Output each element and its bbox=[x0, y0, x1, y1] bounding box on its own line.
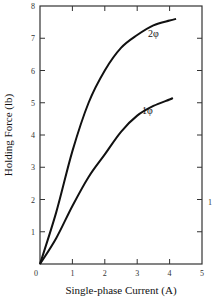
x-tick-label: 4 bbox=[168, 269, 172, 278]
y-tick-label: 8 bbox=[31, 2, 35, 11]
series-label-1phi: 1φ bbox=[142, 105, 153, 116]
x-axis-title: Single-phase Current (A) bbox=[65, 284, 177, 297]
y-tick-label: 4 bbox=[31, 131, 35, 140]
x-tick-label: 3 bbox=[135, 269, 139, 278]
y-tick-label: 3 bbox=[31, 163, 35, 172]
y-tick-label: 7 bbox=[31, 34, 35, 43]
y-tick-label: 1 bbox=[31, 228, 35, 237]
y-tick-label: 2 bbox=[31, 196, 35, 205]
series-label-2phi: 2φ bbox=[148, 28, 159, 39]
y-tick-label: 5 bbox=[31, 99, 35, 108]
right-margin-fragment: 1 bbox=[208, 198, 212, 207]
y-tick-label: 6 bbox=[31, 67, 35, 76]
x-tick-label: 0 bbox=[34, 269, 38, 278]
x-tick-label: 5 bbox=[200, 269, 204, 278]
plot-frame bbox=[40, 6, 202, 264]
curve-2phi bbox=[40, 19, 176, 264]
y-ticks: 12345678 bbox=[31, 2, 202, 237]
chart: 012345 12345678 Single-phase Current (A)… bbox=[0, 0, 214, 302]
x-ticks: 012345 bbox=[34, 6, 204, 278]
y-axis-title: Holding Force (lb) bbox=[2, 93, 15, 176]
x-tick-label: 1 bbox=[70, 269, 74, 278]
curves bbox=[40, 19, 176, 264]
curve-1phi bbox=[40, 98, 173, 264]
x-tick-label: 2 bbox=[103, 269, 107, 278]
